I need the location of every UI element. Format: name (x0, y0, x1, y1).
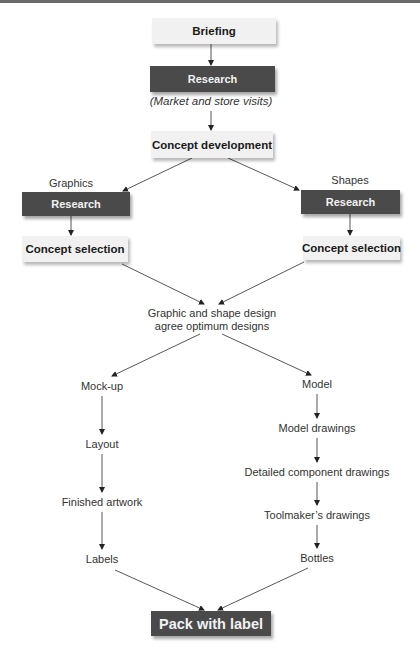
merge-step-line2: agree optimum designs (155, 320, 269, 333)
research-box-main: Research (150, 66, 275, 92)
step-finished-artwork: Finished artwork (62, 496, 143, 509)
merge-step-line1: Graphic and shape design (148, 307, 276, 320)
step-detailed-component-drawings: Detailed component drawings (245, 466, 390, 479)
concept-selection-box-graphics: Concept selection (22, 236, 128, 262)
step-toolmakers-drawings: Toolmaker’s drawings (264, 509, 370, 522)
concept-selection-box-shapes: Concept selection (303, 236, 400, 260)
research-box-graphics: Research (22, 192, 130, 216)
briefing-box: Briefing (152, 18, 276, 44)
step-model: Model (302, 378, 332, 391)
step-model-drawings: Model drawings (278, 422, 355, 435)
branch-label-shapes: Shapes (331, 174, 368, 187)
step-bottles: Bottles (300, 552, 334, 565)
concept-development-box: Concept development (151, 131, 273, 158)
step-labels: Labels (86, 553, 118, 566)
research-note: (Market and store visits) (150, 95, 273, 107)
research-box-shapes: Research (301, 190, 400, 214)
step-mock-up: Mock-up (81, 380, 123, 393)
step-layout: Layout (85, 438, 118, 451)
branch-label-graphics: Graphics (49, 177, 93, 190)
pack-with-label-box: Pack with label (151, 611, 271, 636)
